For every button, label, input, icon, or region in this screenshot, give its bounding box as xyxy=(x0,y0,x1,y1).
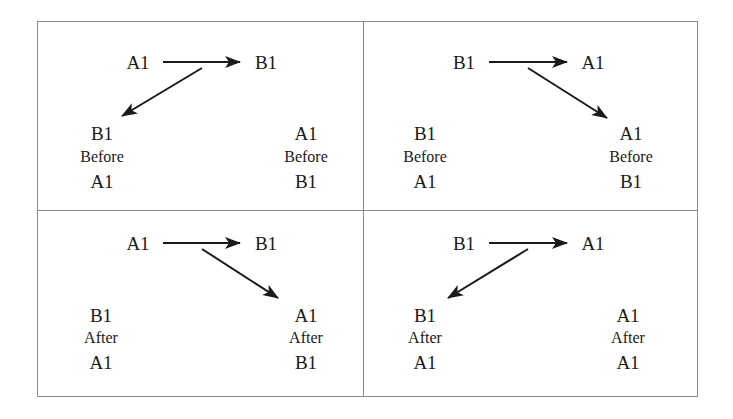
vertical-divider xyxy=(363,22,364,396)
left-stack-relation: After xyxy=(84,330,118,346)
right-stack-top: A1 xyxy=(619,124,642,143)
horizontal-divider xyxy=(38,210,697,211)
top-row-left-label: A1 xyxy=(126,53,149,72)
top-row-right-label: B1 xyxy=(255,53,277,72)
top-row-left-label: B1 xyxy=(453,234,475,253)
left-stack-relation: Before xyxy=(403,149,447,165)
left-stack-bottom: A1 xyxy=(413,353,436,372)
right-stack-top: A1 xyxy=(294,124,317,143)
right-stack-relation: After xyxy=(289,330,323,346)
right-stack-relation: After xyxy=(611,330,645,346)
right-stack-bottom: B1 xyxy=(295,172,317,191)
left-stack-top: B1 xyxy=(414,124,436,143)
left-stack-relation: Before xyxy=(80,149,124,165)
left-stack-bottom: A1 xyxy=(90,172,113,191)
top-row-right-label: A1 xyxy=(581,234,604,253)
top-row-right-label: A1 xyxy=(581,53,604,72)
top-row-right-label: B1 xyxy=(255,234,277,253)
left-stack-top: B1 xyxy=(90,306,112,325)
right-stack-bottom: B1 xyxy=(620,172,642,191)
right-stack-top: A1 xyxy=(294,306,317,325)
left-stack-relation: After xyxy=(408,330,442,346)
right-stack-bottom: A1 xyxy=(616,353,639,372)
right-stack-bottom: B1 xyxy=(295,353,317,372)
left-stack-bottom: A1 xyxy=(413,172,436,191)
top-row-left-label: B1 xyxy=(453,53,475,72)
left-stack-bottom: A1 xyxy=(89,353,112,372)
right-stack-relation: Before xyxy=(284,149,328,165)
top-row-left-label: A1 xyxy=(126,234,149,253)
right-stack-relation: Before xyxy=(609,149,653,165)
diagram-grid xyxy=(37,21,698,397)
left-stack-top: B1 xyxy=(414,306,436,325)
right-stack-top: A1 xyxy=(616,306,639,325)
left-stack-top: B1 xyxy=(91,124,113,143)
